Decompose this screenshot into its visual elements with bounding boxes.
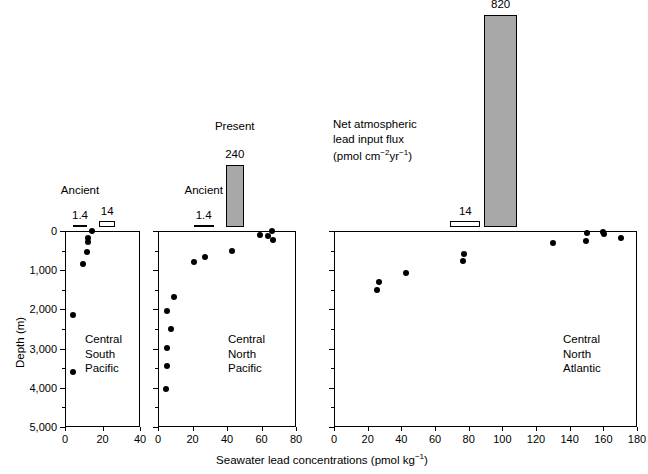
x-tick <box>140 427 141 431</box>
y-tick-minor <box>155 329 158 330</box>
y-tick <box>60 349 65 350</box>
data-point <box>89 228 95 234</box>
x-tick-label: 20 <box>362 433 374 445</box>
data-point <box>168 326 174 332</box>
data-point <box>229 248 235 254</box>
x-tick-label: 140 <box>560 433 578 445</box>
caption-line: Central <box>85 332 122 347</box>
panel-caption-2: CentralNorthPacific <box>228 332 265 376</box>
x-tick-label: 120 <box>527 433 545 445</box>
y-tick-minor <box>331 290 334 291</box>
data-point <box>584 230 590 236</box>
flux-value: 240 <box>225 148 244 160</box>
x-tick-label: 100 <box>493 433 511 445</box>
y-tick-minor <box>155 290 158 291</box>
data-point <box>85 239 91 245</box>
caption-line: North <box>563 347 601 362</box>
x-tick-label: 180 <box>628 433 646 445</box>
x-tick-label: 40 <box>221 433 233 445</box>
y-tick-minor <box>331 368 334 369</box>
y-tick <box>153 231 158 232</box>
y-tick-minor <box>62 329 65 330</box>
caption-line: Pacific <box>228 361 265 376</box>
data-point <box>601 231 607 237</box>
x-tick <box>158 427 159 431</box>
x-axis-title: Seawater lead concentrations (pmol kg−1) <box>216 452 428 466</box>
y-tick-minor <box>155 407 158 408</box>
data-point <box>374 287 380 293</box>
flux-value: 1.4 <box>72 209 88 221</box>
panel-caption-3: CentralNorthAtlantic <box>563 332 601 376</box>
x-tick <box>502 427 503 431</box>
flux-value: 14 <box>459 205 472 217</box>
flux-bar-open <box>99 221 115 227</box>
data-point <box>191 259 197 265</box>
y-tick <box>329 427 334 428</box>
caption-line: North <box>228 347 265 362</box>
x-tick-label: 20 <box>186 433 198 445</box>
data-point <box>403 270 409 276</box>
y-tick <box>60 270 65 271</box>
flux-bar-present <box>226 165 244 227</box>
panel-frame-1 <box>65 231 140 427</box>
x-tick <box>401 427 402 431</box>
x-tick <box>368 427 369 431</box>
panel-frame-3 <box>334 231 637 427</box>
x-tick-label: 0 <box>331 433 337 445</box>
data-point <box>70 312 76 318</box>
x-tick <box>262 427 263 431</box>
x-tick <box>334 427 335 431</box>
y-tick-minor <box>62 407 65 408</box>
x-tick <box>65 427 66 431</box>
y-tick-label: 0 <box>0 225 57 237</box>
y-tick-minor <box>62 368 65 369</box>
y-tick <box>60 231 65 232</box>
x-tick <box>193 427 194 431</box>
data-point <box>257 232 263 238</box>
y-tick <box>153 270 158 271</box>
x-tick <box>536 427 537 431</box>
x-tick-label: 60 <box>255 433 267 445</box>
x-tick-label: 40 <box>395 433 407 445</box>
x-tick-label: 40 <box>134 433 146 445</box>
caption-line: South <box>85 347 122 362</box>
y-tick-label: 3,000 <box>0 343 57 355</box>
x-tick <box>603 427 604 431</box>
data-point <box>460 258 466 264</box>
x-tick <box>469 427 470 431</box>
y-tick-label: 1,000 <box>0 264 57 276</box>
x-tick <box>637 427 638 431</box>
flux-label-present: Present <box>215 120 255 132</box>
y-tick-minor <box>331 407 334 408</box>
y-tick <box>153 349 158 350</box>
caption-line: Central <box>563 332 601 347</box>
x-tick <box>227 427 228 431</box>
x-tick-label: 60 <box>429 433 441 445</box>
x-tick-label: 20 <box>96 433 108 445</box>
panel-frame-2 <box>158 231 296 427</box>
x-tick <box>570 427 571 431</box>
y-tick <box>329 388 334 389</box>
panel-caption-1: CentralSouthPacific <box>85 332 122 376</box>
y-tick-minor <box>331 251 334 252</box>
y-tick <box>153 388 158 389</box>
y-tick <box>329 309 334 310</box>
caption-line: Pacific <box>85 361 122 376</box>
y-tick <box>60 388 65 389</box>
y-tick-label: 4,000 <box>0 382 57 394</box>
flux-note-line-3: (pmol cm−2yr−1) <box>333 146 417 163</box>
data-point <box>202 254 208 260</box>
flux-label-ancient: Ancient <box>185 184 223 196</box>
y-tick-minor <box>62 290 65 291</box>
data-point <box>164 308 170 314</box>
y-tick <box>153 427 158 428</box>
x-tick-label: 80 <box>290 433 302 445</box>
flux-note-line-2: lead input flux <box>333 132 417 147</box>
y-tick-label: 2,000 <box>0 303 57 315</box>
y-tick-minor <box>331 329 334 330</box>
y-axis-title: Depth (m) <box>14 317 26 368</box>
y-tick-minor <box>155 251 158 252</box>
x-tick-label: 0 <box>155 433 161 445</box>
flux-bar-ancient <box>73 225 86 227</box>
y-tick-minor <box>155 368 158 369</box>
